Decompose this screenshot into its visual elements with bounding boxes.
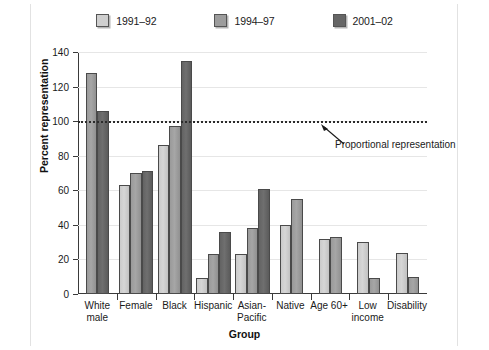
bar bbox=[181, 61, 193, 294]
x-axis-title: Group bbox=[0, 328, 489, 340]
y-axis-tick-label: 140 bbox=[52, 47, 69, 58]
legend-swatch-1994-97 bbox=[214, 14, 227, 27]
bar-group bbox=[117, 52, 156, 294]
legend-label-2001-02: 2001–02 bbox=[353, 15, 393, 27]
bar bbox=[319, 239, 331, 294]
y-axis-title: Percent representation bbox=[38, 59, 50, 173]
bar bbox=[396, 253, 408, 294]
x-axis-tick-label: Hispanic bbox=[194, 300, 233, 323]
bar-group bbox=[349, 52, 388, 294]
x-axis-tick-label: Whitemale bbox=[78, 300, 117, 323]
x-axis-tick-label: Age 60+ bbox=[310, 300, 349, 323]
bar bbox=[258, 189, 270, 294]
y-axis-tick-label: 40 bbox=[58, 219, 69, 230]
bar bbox=[142, 171, 154, 294]
bar bbox=[235, 254, 247, 294]
proportional-representation-line bbox=[78, 121, 427, 123]
legend-swatch-1991-92 bbox=[96, 14, 109, 27]
bar bbox=[119, 185, 131, 294]
x-axis-tick-labels: WhitemaleFemaleBlackHispanicAsian-Pacifi… bbox=[78, 300, 427, 323]
plot-area: 020406080100120140 bbox=[78, 52, 427, 294]
bar bbox=[196, 278, 208, 294]
legend-item-1991-92: 1991–92 bbox=[96, 14, 156, 27]
bar-group bbox=[156, 52, 195, 294]
bar bbox=[130, 173, 142, 294]
legend-label-1994-97: 1994–97 bbox=[234, 15, 274, 27]
x-axis-tick-label: Asian-Pacific bbox=[233, 300, 272, 323]
x-axis-tick-label: Black bbox=[155, 300, 194, 323]
bar bbox=[158, 145, 170, 294]
x-axis-tick-label: Lowincome bbox=[348, 300, 387, 323]
legend-label-1991-92: 1991–92 bbox=[116, 15, 156, 27]
x-axis-tick-label: Female bbox=[117, 300, 156, 323]
y-axis-tick-label: 0 bbox=[63, 289, 69, 300]
bar-group bbox=[194, 52, 233, 294]
legend-item-1994-97: 1994–97 bbox=[214, 14, 274, 27]
bar bbox=[86, 73, 98, 294]
bar bbox=[280, 225, 292, 294]
legend-swatch-2001-02 bbox=[333, 14, 346, 27]
bar-group bbox=[233, 52, 272, 294]
bar bbox=[169, 126, 181, 294]
x-axis-tick-label: Disability bbox=[387, 300, 427, 323]
bar-group bbox=[272, 52, 311, 294]
annotation-label: Proportional representation bbox=[335, 139, 456, 150]
bar-series-container bbox=[78, 52, 427, 294]
bar bbox=[208, 254, 220, 294]
y-axis-tick-label: 100 bbox=[52, 116, 69, 127]
y-axis-tick-label: 120 bbox=[52, 81, 69, 92]
legend-item-2001-02: 2001–02 bbox=[333, 14, 393, 27]
bar bbox=[369, 278, 381, 294]
bar bbox=[330, 237, 342, 294]
y-axis-tick-label: 80 bbox=[58, 150, 69, 161]
bar bbox=[291, 199, 303, 294]
bar bbox=[357, 242, 369, 294]
bar bbox=[219, 232, 231, 294]
bar-group bbox=[311, 52, 350, 294]
bar bbox=[247, 228, 259, 294]
y-axis-tick bbox=[73, 294, 78, 295]
chart-figure: 1991–92 1994–97 2001–02 Percent represen… bbox=[0, 0, 489, 350]
chart-legend: 1991–92 1994–97 2001–02 bbox=[0, 14, 489, 27]
x-axis-tick-label: Native bbox=[271, 300, 310, 323]
bar bbox=[97, 111, 109, 294]
bar bbox=[408, 277, 420, 294]
y-axis-tick-label: 20 bbox=[58, 254, 69, 265]
y-axis-tick-label: 60 bbox=[58, 185, 69, 196]
bar-group bbox=[388, 52, 427, 294]
bar-group bbox=[78, 52, 117, 294]
